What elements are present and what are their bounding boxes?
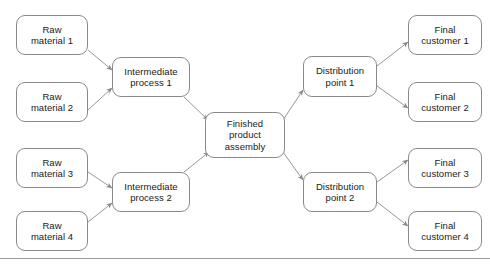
node-raw3[interactable]: Raw material 3: [16, 148, 88, 188]
node-label-dist1: Distribution point 1: [304, 65, 376, 88]
node-fin[interactable]: Finished product assembly: [205, 112, 285, 158]
node-label-raw3: Raw material 3: [17, 157, 87, 180]
node-label-cust4: Final customer 4: [409, 220, 481, 243]
node-label-dist2: Distribution point 2: [304, 181, 376, 204]
node-dist2[interactable]: Distribution point 2: [303, 172, 377, 212]
node-int2[interactable]: Intermediate process 2: [112, 172, 190, 212]
node-dist1[interactable]: Distribution point 1: [303, 56, 377, 97]
node-label-fin: Finished product assembly: [206, 118, 284, 153]
node-label-int2: Intermediate process 2: [113, 181, 189, 204]
node-raw4[interactable]: Raw material 4: [16, 211, 88, 251]
node-cust1[interactable]: Final customer 1: [408, 15, 482, 55]
node-raw1[interactable]: Raw material 1: [16, 15, 88, 55]
node-label-cust3: Final customer 3: [409, 157, 481, 180]
edge-fin-to-dist2: [283, 152, 303, 180]
edge-raw3-to-int2: [88, 172, 112, 188]
edge-fin-to-dist1: [283, 90, 303, 120]
edge-raw4-to-int2: [88, 203, 112, 222]
node-label-cust1: Final customer 1: [409, 24, 481, 47]
edge-raw2-to-int1: [88, 88, 112, 110]
edge-int1-to-fin: [184, 97, 208, 120]
node-raw2[interactable]: Raw material 2: [16, 82, 88, 122]
edge-dist2-to-cust4: [377, 202, 408, 226]
edge-dist1-to-cust2: [377, 86, 408, 108]
node-label-raw2: Raw material 2: [17, 91, 87, 114]
footer-divider: [0, 258, 490, 259]
edge-raw1-to-int1: [88, 50, 112, 70]
node-cust4[interactable]: Final customer 4: [408, 211, 482, 251]
node-label-int1: Intermediate process 1: [113, 66, 189, 89]
edge-dist1-to-cust1: [377, 42, 408, 66]
node-label-raw1: Raw material 1: [17, 24, 87, 47]
flow-diagram-canvas: Raw material 1Raw material 2Raw material…: [0, 0, 490, 266]
edge-dist2-to-cust3: [377, 160, 408, 182]
edge-int2-to-fin: [184, 152, 209, 172]
node-label-cust2: Final customer 2: [409, 91, 481, 114]
node-int1[interactable]: Intermediate process 1: [112, 57, 190, 97]
node-label-raw4: Raw material 4: [17, 220, 87, 243]
node-cust2[interactable]: Final customer 2: [408, 82, 482, 122]
node-cust3[interactable]: Final customer 3: [408, 148, 482, 188]
